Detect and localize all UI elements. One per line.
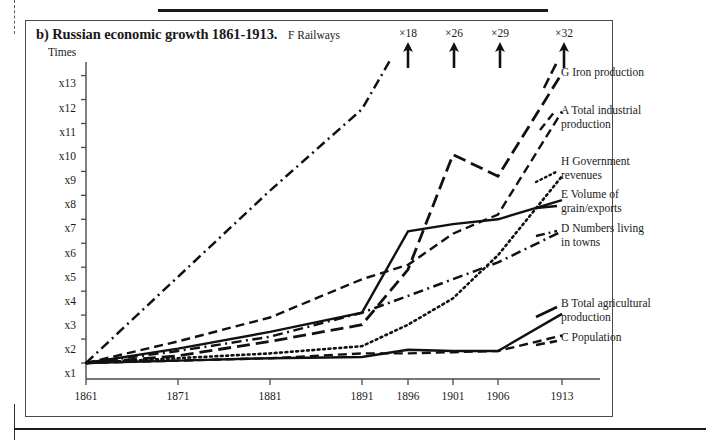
chart-plot-area xyxy=(0,0,706,440)
y-tick-marks xyxy=(81,76,86,363)
series-line-E xyxy=(86,200,562,363)
series-line-F xyxy=(86,61,390,363)
series-layer xyxy=(86,61,562,363)
x-tick-marks xyxy=(86,379,562,385)
figure-page: b) Russian economic growth 1861-1913. F … xyxy=(0,0,706,440)
series-line-A xyxy=(86,112,562,364)
series-line-H xyxy=(86,176,562,363)
series-line-D xyxy=(86,231,562,363)
